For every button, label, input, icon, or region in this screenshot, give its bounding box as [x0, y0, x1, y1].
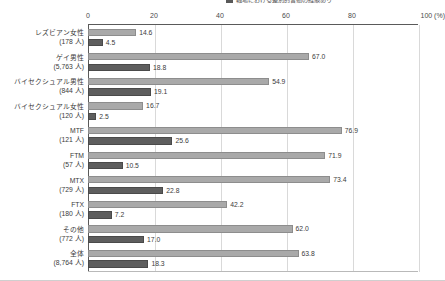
bar-value-label: 22.8 [166, 187, 179, 194]
x-axis-tick-0: 0 [86, 12, 90, 19]
bar-value-label: 17.0 [147, 236, 160, 243]
category-name: バイセクシュアル女性 [0, 102, 84, 111]
bar-group: 63.818.3 [88, 249, 418, 271]
bar-group: 54.919.1 [88, 77, 418, 99]
chart-row: レズビアン女性(178 人)14.64.5 [0, 28, 445, 53]
bar-series-light [88, 53, 309, 60]
x-axis-tick-40: 40 [216, 12, 224, 19]
bar-group: 76.925.6 [88, 126, 418, 148]
x-axis-tick-60: 60 [282, 12, 290, 19]
bar-value-label: 19.1 [154, 88, 167, 95]
category-count: (120 人) [0, 111, 84, 120]
chart-row: MTF(121 人)76.925.6 [0, 126, 445, 151]
bar-group: 71.910.5 [88, 151, 418, 173]
bar-series-dark [88, 260, 148, 267]
x-axis-tick-100: 100 (%) [420, 12, 445, 19]
category-label: FTM(57 人) [0, 151, 84, 169]
category-label: MTX(729 人) [0, 176, 84, 194]
category-count: (57 人) [0, 160, 84, 169]
bar-series-dark [88, 211, 112, 218]
category-label: その他(772 人) [0, 225, 84, 243]
bar-value-label: 2.5 [99, 113, 108, 120]
bar-series-light [88, 176, 330, 183]
bar-series-light [88, 102, 143, 109]
bar-value-label: 76.9 [345, 127, 358, 134]
category-count: (844 人) [0, 86, 84, 95]
chart-row: バイセクシュアル男性(844 人)54.919.1 [0, 77, 445, 102]
bar-series-dark [88, 64, 150, 71]
category-name: MTF [0, 126, 84, 135]
x-axis-tick-80: 80 [348, 12, 356, 19]
bar-series-light [88, 29, 136, 36]
bar-value-label: 18.3 [151, 260, 164, 267]
category-name: バイセクシュアル男性 [0, 77, 84, 86]
category-name: 全体 [0, 249, 84, 258]
chart-row: その他(772 人)62.017.0 [0, 225, 445, 250]
bar-value-label: 4.5 [106, 39, 115, 46]
category-count: (8,764 人) [0, 258, 84, 267]
category-count: (772 人) [0, 234, 84, 243]
category-name: MTX [0, 176, 84, 185]
bar-series-light [88, 152, 325, 159]
bar-value-label: 73.4 [333, 176, 346, 183]
bar-group: 73.422.8 [88, 176, 418, 198]
category-name: FTM [0, 151, 84, 160]
bar-series-dark [88, 137, 172, 144]
bar-value-label: 71.9 [328, 152, 341, 159]
category-label: レズビアン女性(178 人) [0, 28, 84, 46]
legend-label: 職場における差別的言動の経験あり [236, 0, 332, 4]
category-name: その他 [0, 225, 84, 234]
chart-row: FTX(180 人)42.27.2 [0, 200, 445, 225]
bar-value-label: 63.8 [302, 250, 315, 257]
bar-value-label: 67.0 [312, 53, 325, 60]
bar-value-label: 14.6 [139, 29, 152, 36]
bar-series-light [88, 78, 269, 85]
category-label: MTF(121 人) [0, 126, 84, 144]
category-count: (729 人) [0, 185, 84, 194]
bar-series-dark [88, 39, 103, 46]
category-label: 全体(8,764 人) [0, 249, 84, 267]
category-name: レズビアン女性 [0, 28, 84, 37]
category-name: ゲイ男性 [0, 53, 84, 62]
category-label: バイセクシュアル男性(844 人) [0, 77, 84, 95]
category-label: バイセクシュアル女性(120 人) [0, 102, 84, 120]
bar-series-light [88, 201, 227, 208]
bar-value-label: 7.2 [115, 211, 124, 218]
category-label: FTX(180 人) [0, 200, 84, 218]
category-count: (121 人) [0, 135, 84, 144]
bar-series-dark [88, 113, 96, 120]
chart-legend: 職場における差別的言動の経験あり [226, 0, 332, 4]
bar-group: 67.018.8 [88, 53, 418, 75]
chart-row: バイセクシュアル女性(120 人)16.72.5 [0, 102, 445, 127]
bar-series-light [88, 225, 293, 232]
bar-value-label: 62.0 [296, 225, 309, 232]
category-label: ゲイ男性(5,763 人) [0, 53, 84, 71]
bar-series-dark [88, 88, 151, 95]
bar-value-label: 18.8 [153, 64, 166, 71]
bar-group: 62.017.0 [88, 225, 418, 247]
chart-row: FTM(57 人)71.910.5 [0, 151, 445, 176]
bar-value-label: 54.9 [272, 78, 285, 85]
bar-value-label: 25.6 [175, 137, 188, 144]
bar-group: 16.72.5 [88, 102, 418, 124]
chart-row: ゲイ男性(5,763 人)67.018.8 [0, 53, 445, 78]
chart-row: MTX(729 人)73.422.8 [0, 176, 445, 201]
bar-chart: 職場における差別的言動の経験あり 020406080100 (%) レズビアン女… [0, 0, 445, 281]
legend-swatch-dark-icon [226, 0, 233, 3]
bar-value-label: 10.5 [126, 162, 139, 169]
bar-series-dark [88, 187, 163, 194]
bar-group: 14.64.5 [88, 28, 418, 50]
x-axis-tick-labels: 020406080100 (%) [0, 12, 445, 24]
bar-series-light [88, 127, 342, 134]
bar-value-label: 42.2 [230, 201, 243, 208]
bar-series-dark [88, 162, 123, 169]
category-count: (5,763 人) [0, 62, 84, 71]
chart-row: 全体(8,764 人)63.818.3 [0, 249, 445, 274]
category-count: (178 人) [0, 37, 84, 46]
x-axis-tick-20: 20 [150, 12, 158, 19]
bar-series-dark [88, 236, 144, 243]
bar-group: 42.27.2 [88, 200, 418, 222]
bar-value-label: 16.7 [146, 102, 159, 109]
bar-series-light [88, 250, 299, 257]
category-count: (180 人) [0, 209, 84, 218]
